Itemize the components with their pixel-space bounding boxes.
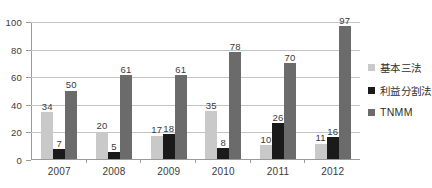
bar-slot: 26 [272,22,284,159]
legend-swatch-icon [368,87,375,94]
bar-slot: 70 [284,22,296,159]
y-axis-label: 20 [11,127,22,138]
legend-swatch-icon [368,64,375,71]
x-axis-label-2008: 2008 [102,166,125,177]
y-axis-tick [26,132,31,133]
bar-基本三法-2008[interactable]: 20 [96,132,108,159]
bar-slot: 16 [327,22,339,159]
bar-group-2007: 347502007 [32,22,87,159]
bar-利益分割法-2012[interactable]: 16 [327,137,339,159]
x-axis-label-2009: 2009 [157,166,180,177]
bar-group-2008: 205612008 [87,22,142,159]
bar-value-label: 20 [97,121,108,131]
bar-value-label: 17 [151,125,162,135]
legend-label: TNMM [380,106,413,118]
legend-label: 基本三法 [380,60,421,75]
bar-slot: 18 [163,22,175,159]
bar-slot: 7 [53,22,65,159]
x-axis-tick [304,159,305,163]
bar-value-label: 8 [221,138,226,148]
bar-value-label: 61 [175,65,186,75]
bar-slot: 10 [260,22,272,159]
bar-利益分割法-2008[interactable]: 5 [108,152,120,159]
bar-slot: 34 [41,22,53,159]
bar-value-label: 35 [206,101,217,111]
bar-value-label: 5 [111,142,116,152]
x-axis-label-2012: 2012 [321,166,344,177]
x-axis-tick [140,159,141,163]
y-axis-label: 100 [6,17,22,28]
bar-TNMM-2008[interactable]: 61 [120,75,132,159]
bar-value-label: 97 [339,16,350,26]
y-axis-label: 80 [11,44,22,55]
y-axis-tick [26,50,31,51]
bar-基本三法-2011[interactable]: 10 [260,145,272,159]
bar-TNMM-2007[interactable]: 50 [65,91,77,160]
legend-label: 利益分割法 [380,83,432,98]
y-axis-tick [26,77,31,78]
y-axis-tick [26,105,31,106]
bar-group-2012: 1116972012 [305,22,360,159]
bar-利益分割法-2009[interactable]: 18 [163,134,175,159]
bar-基本三法-2010[interactable]: 35 [205,111,217,159]
bar-slot: 78 [229,22,241,159]
bar-value-label: 7 [57,139,62,149]
bar-利益分割法-2007[interactable]: 7 [53,149,65,159]
x-axis-tick [250,159,251,163]
x-axis-label-2010: 2010 [212,166,235,177]
bar-TNMM-2011[interactable]: 70 [284,63,296,159]
bar-value-label: 61 [121,65,132,75]
bar-TNMM-2009[interactable]: 61 [175,75,187,159]
x-axis-tick [195,159,196,163]
legend-item-TNMM[interactable]: TNMM [368,106,432,118]
bar-value-label: 11 [316,133,326,143]
bar-基本三法-2007[interactable]: 34 [41,112,53,159]
bar-slot: 35 [205,22,217,159]
y-axis-tick [26,160,31,161]
bar-value-label: 26 [273,113,284,123]
x-axis-label-2007: 2007 [48,166,71,177]
bar-slot: 17 [151,22,163,159]
x-axis-tick [86,159,87,163]
bar-value-label: 50 [66,80,77,90]
bar-groups: 3475020072056120081718612009358782010102… [32,22,360,159]
bar-TNMM-2012[interactable]: 97 [339,26,351,159]
bar-group-2010: 358782010 [196,22,251,159]
bar-value-label: 18 [163,124,174,134]
y-axis-tick [26,22,31,23]
bar-slot: 61 [175,22,187,159]
bar-slot: 5 [108,22,120,159]
bar-slot: 8 [217,22,229,159]
bar-利益分割法-2011[interactable]: 26 [272,123,284,159]
bar-slot: 11 [315,22,327,159]
bar-value-label: 70 [285,53,296,63]
legend-item-利益分割法[interactable]: 利益分割法 [368,83,432,98]
legend-item-基本三法[interactable]: 基本三法 [368,60,432,75]
bar-基本三法-2012[interactable]: 11 [315,144,327,159]
bar-基本三法-2009[interactable]: 17 [151,136,163,159]
y-axis-label: 60 [11,72,22,83]
bar-value-label: 10 [261,135,272,145]
x-axis-label-2011: 2011 [267,166,289,177]
plot-area: 020406080100 347502007205612008171861200… [31,22,360,160]
bar-value-label: 78 [230,42,241,52]
bar-slot: 20 [96,22,108,159]
legend-swatch-icon [368,109,375,116]
bar-利益分割法-2010[interactable]: 8 [217,148,229,159]
chart-legend: 基本三法利益分割法TNMM [368,60,432,118]
bar-TNMM-2010[interactable]: 78 [229,52,241,159]
y-axis-label: 40 [11,99,22,110]
bar-value-label: 34 [42,102,53,112]
bar-group-2011: 1026702011 [251,22,306,159]
y-axis-label: 0 [17,155,22,166]
bar-slot: 97 [339,22,351,159]
bar-slot: 50 [65,22,77,159]
bar-value-label: 16 [327,127,338,137]
bar-group-2009: 1718612009 [141,22,196,159]
bar-slot: 61 [120,22,132,159]
